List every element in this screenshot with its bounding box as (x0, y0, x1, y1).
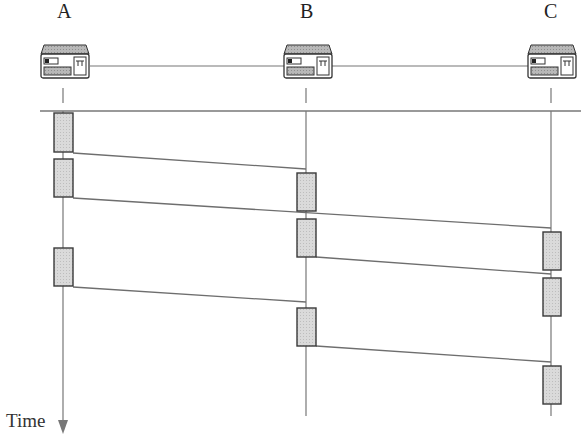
transmission-box-c (543, 232, 561, 270)
computer-icon-a (41, 45, 89, 78)
transmission-box-b (297, 219, 316, 257)
computer-icon-c (528, 45, 576, 78)
transmission-box-b (297, 308, 316, 346)
transmission-box-a (54, 248, 73, 286)
transmission-box-c (543, 366, 561, 404)
message-a-to-b (73, 287, 306, 302)
computer-icon-b (284, 45, 332, 78)
timing-diagram (0, 0, 581, 444)
message-b-to-c (316, 346, 551, 362)
message-a-to-b (73, 153, 306, 169)
transmission-box-a (54, 113, 73, 152)
transmission-box-b (297, 173, 316, 211)
transmission-box-a (54, 159, 73, 197)
transmission-box-c (543, 278, 561, 316)
time-arrow-icon (58, 420, 68, 434)
message-b-to-c (316, 257, 551, 274)
